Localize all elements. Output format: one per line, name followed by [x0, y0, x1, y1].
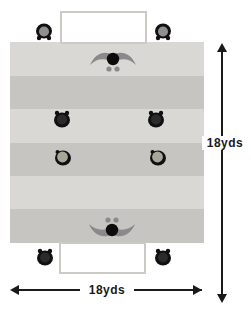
arrow-left-icon [10, 285, 19, 295]
goalkeeper-top-icon [89, 48, 137, 75]
goal-top [60, 11, 147, 44]
server-top-right-icon [153, 22, 173, 41]
arrow-down-icon [217, 294, 227, 303]
drill-diagram: 18yds 18yds [0, 0, 251, 313]
defender-left-icon [52, 110, 72, 129]
attacker-left-icon [53, 148, 73, 167]
width-dimension-label: 18yds [80, 283, 134, 297]
server-top-left-icon [34, 22, 54, 41]
arrow-up-icon [217, 43, 227, 52]
server-bottom-right-icon [153, 248, 173, 267]
goalkeeper-bottom-icon [88, 214, 136, 241]
attacker-right-icon [148, 148, 168, 167]
height-dimension-label: 18yds [202, 136, 248, 150]
server-bottom-left-icon [35, 248, 55, 267]
vertical-dimension-line [221, 46, 223, 298]
goal-bottom [59, 242, 146, 274]
arrow-right-icon [193, 285, 202, 295]
defender-right-icon [146, 110, 166, 129]
